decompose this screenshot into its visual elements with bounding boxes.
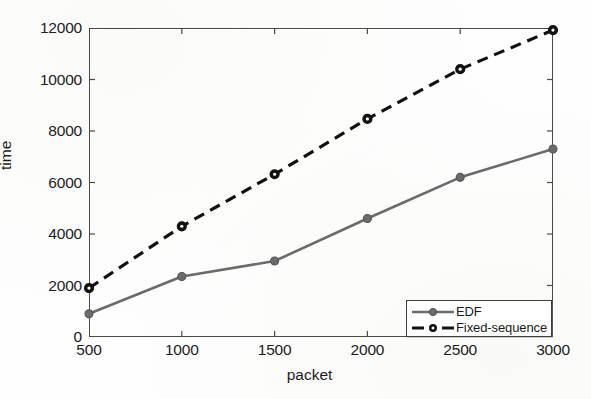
data-point-fixed-sequence-500 — [85, 284, 94, 293]
legend-label-fixed-sequence: Fixed-sequence — [456, 320, 547, 335]
y-tick-label-10000: 10000 — [40, 71, 82, 89]
data-point-edf-1000 — [178, 272, 186, 280]
data-point-edf-2500 — [456, 173, 464, 181]
x-tick-label-2500: 2500 — [443, 341, 477, 359]
y-tick-label-8000: 8000 — [48, 122, 82, 140]
data-point-edf-3000 — [549, 145, 557, 153]
data-point-fixed-sequence-2000 — [363, 115, 372, 124]
plot-area — [89, 28, 553, 337]
data-point-fixed-sequence-3000 — [549, 26, 558, 35]
y-tick-label-12000: 12000 — [40, 19, 82, 37]
chart-canvas — [89, 28, 553, 337]
x-axis-label: packet — [0, 366, 591, 384]
series-line-fixed-sequence — [89, 30, 553, 288]
data-point-edf-500 — [85, 310, 93, 318]
legend-entry-fixed-sequence: Fixed-sequence — [407, 319, 551, 336]
data-point-edf-1500 — [271, 257, 279, 265]
chart-screenshot: time 020004000600080001000012000 5001000… — [0, 0, 591, 399]
legend-sample-dashed-line-icon — [410, 321, 456, 335]
legend-sample-solid-line-icon — [410, 305, 456, 319]
chart-legend: EDF Fixed-sequence — [406, 300, 552, 337]
legend-entry-edf: EDF — [407, 303, 551, 320]
x-tick-label-1000: 1000 — [165, 341, 199, 359]
x-tick-label-1500: 1500 — [258, 341, 292, 359]
x-tick-label-3000: 3000 — [536, 341, 570, 359]
series-line-edf — [89, 149, 553, 314]
x-tick-label-2000: 2000 — [351, 341, 385, 359]
data-point-fixed-sequence-1000 — [178, 222, 187, 231]
data-point-fixed-sequence-1500 — [270, 170, 279, 179]
data-point-fixed-sequence-2500 — [456, 65, 465, 74]
x-tick-label-500: 500 — [76, 341, 101, 359]
legend-label-edf: EDF — [456, 304, 482, 319]
data-point-edf-2000 — [363, 215, 371, 223]
y-axis-tick-labels: 020004000600080001000012000 — [0, 28, 82, 337]
y-tick-label-2000: 2000 — [48, 277, 82, 295]
y-tick-label-6000: 6000 — [48, 174, 82, 192]
x-axis-tick-labels: 50010001500200025003000 — [89, 341, 553, 365]
y-tick-label-4000: 4000 — [48, 225, 82, 243]
